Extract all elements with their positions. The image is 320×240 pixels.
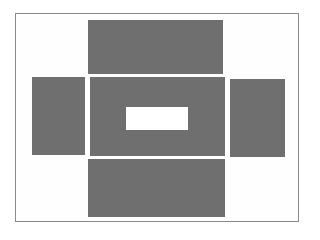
left-panel [32,77,85,155]
top-panel [88,20,223,74]
bottom-panel [88,159,225,217]
center-hole [126,107,188,130]
right-panel [230,79,285,157]
